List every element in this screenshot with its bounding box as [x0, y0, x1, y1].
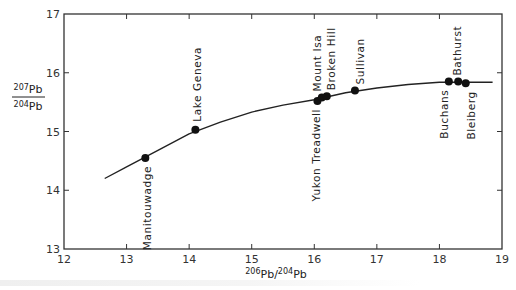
data-point-manitouwadge — [141, 154, 149, 162]
svg-text:204Pb: 204Pb — [14, 100, 43, 113]
x-tick-label: 13 — [120, 253, 134, 266]
lead-isotope-chart: 12131415161718191314151617 ManitouwadgeL… — [0, 0, 516, 290]
y-title-num-base: Pb — [29, 83, 43, 96]
point-label-broken-hill: Broken Hill — [325, 27, 337, 90]
point-label-mount-isa: Mount Isa — [311, 35, 323, 92]
y-axis-title: 207Pb 204Pb — [12, 83, 45, 113]
y-title-den-sup: 204 — [14, 100, 29, 109]
y-tick-label: 16 — [46, 67, 60, 80]
point-label-yukon-treadwell: Yukon Treadwell — [310, 109, 322, 202]
point-label-buchans: Buchans — [438, 90, 450, 139]
point-labels: ManitouwadgeLake GenevaYukon TreadwellMo… — [141, 26, 476, 250]
x-tick-label: 19 — [495, 253, 509, 266]
x-tick-label: 14 — [182, 253, 196, 266]
data-point-lake-geneva — [191, 126, 199, 134]
y-tick-label: 15 — [46, 126, 60, 139]
svg-text:207Pb: 207Pb — [14, 83, 43, 96]
data-point-bathurst — [454, 78, 462, 86]
faint-caption-band — [0, 280, 420, 286]
x-axis-title: 206Pb/204Pb — [245, 267, 307, 281]
svg-text:206Pb/204Pb: 206Pb/204Pb — [245, 267, 307, 281]
plot-frame — [64, 14, 502, 249]
data-point-bleiberg — [462, 79, 470, 87]
point-label-bleiberg: Bleiberg — [465, 91, 477, 139]
x-title-sup1: 206 — [245, 267, 260, 276]
point-label-bathurst: Bathurst — [451, 26, 463, 76]
data-point-broken-hill — [323, 92, 331, 100]
y-tick-label: 13 — [46, 243, 60, 256]
y-tick-label: 17 — [46, 8, 60, 21]
y-tick-label: 14 — [46, 184, 60, 197]
data-point-buchans — [445, 78, 453, 86]
x-title-sup2: 204 — [278, 267, 293, 276]
x-tick-label: 15 — [245, 253, 259, 266]
x-tick-label: 17 — [370, 253, 384, 266]
y-title-num-sup: 207 — [14, 83, 29, 92]
point-label-sullivan: Sullivan — [354, 38, 366, 84]
point-label-lake-geneva: Lake Geneva — [191, 47, 203, 122]
data-point-sullivan — [351, 86, 359, 94]
growth-curve — [105, 82, 493, 178]
x-tick-label: 16 — [307, 253, 321, 266]
plot-border — [64, 14, 502, 249]
y-title-den-base: Pb — [29, 100, 43, 113]
point-label-manitouwadge: Manitouwadge — [141, 166, 153, 250]
x-tick-label: 18 — [432, 253, 446, 266]
